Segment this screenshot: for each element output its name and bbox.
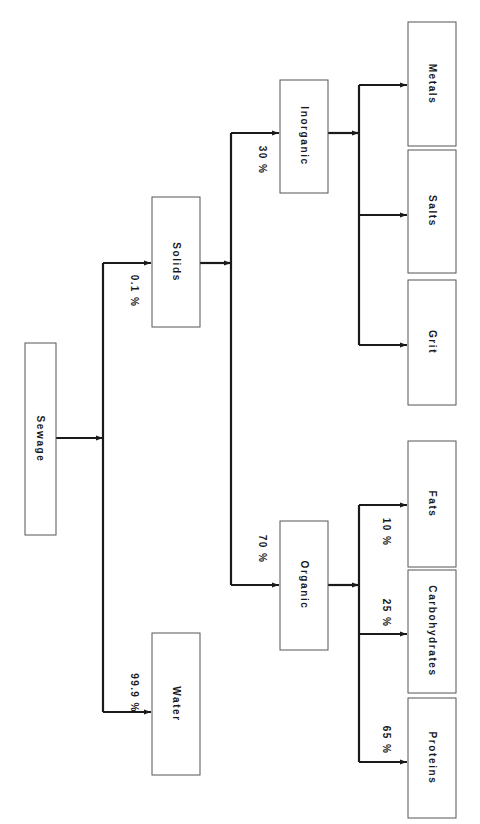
node-sewage: Sewage [25, 343, 56, 535]
node-label-metals: Metals [427, 64, 438, 105]
node-label-grit: Grit [427, 330, 438, 354]
node-label-inorganic: Inorganic [299, 106, 310, 165]
node-organic: Organic [280, 521, 328, 650]
node-label-proteins: Proteins [427, 732, 438, 785]
node-label-fats: Fats [427, 491, 438, 518]
connectors [56, 85, 407, 762]
node-label-carbohydrates: Carbohydrates [427, 585, 438, 676]
percent-organic: 70 % [257, 535, 268, 563]
node-fats: Fats [408, 441, 456, 567]
node-label-solids: Solids [171, 242, 182, 282]
percent-water: 99.9 % [129, 673, 140, 713]
node-label-water: Water [171, 686, 182, 721]
node-grit: Grit [408, 280, 456, 405]
node-inorganic: Inorganic [280, 80, 328, 193]
percent-proteins: 65 % [381, 726, 392, 754]
node-salts: Salts [408, 150, 456, 273]
percent-inorganic: 30 % [257, 146, 268, 174]
percent-carbohydrates: 25 % [381, 599, 392, 627]
node-water: Water [152, 633, 200, 775]
node-label-salts: Salts [427, 195, 438, 227]
percent-fats: 10 % [381, 518, 392, 546]
sewage-composition-diagram: Sewage Solids Water Inorganic Organic Me… [0, 0, 480, 824]
node-metals: Metals [408, 22, 456, 146]
percent-solids: 0.1 % [129, 275, 140, 308]
node-solids: Solids [152, 197, 200, 327]
node-carbohydrates: Carbohydrates [408, 570, 456, 693]
node-label-sewage: Sewage [35, 416, 46, 463]
node-label-organic: Organic [299, 561, 310, 610]
node-proteins: Proteins [408, 698, 456, 818]
